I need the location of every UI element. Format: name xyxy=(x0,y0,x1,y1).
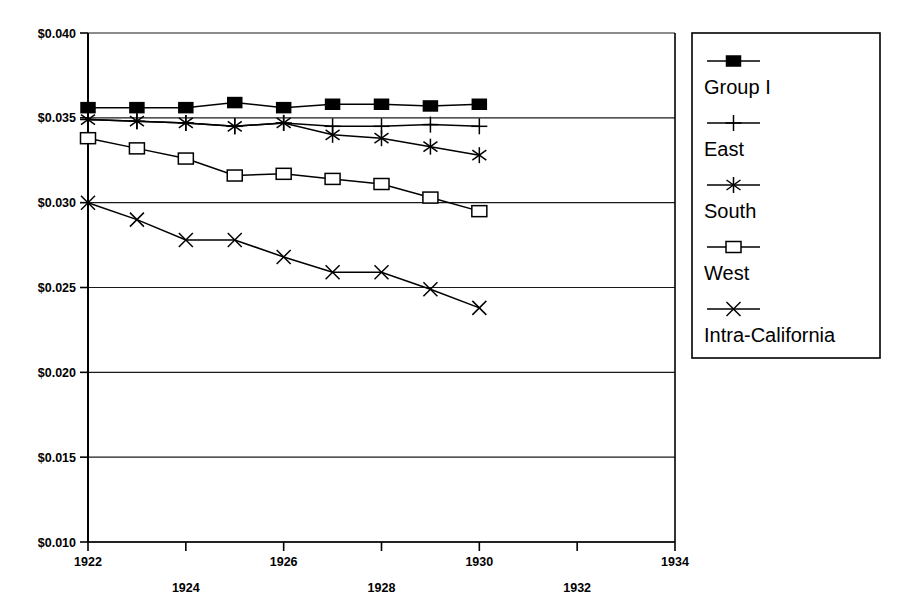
data-point-marker xyxy=(81,133,96,144)
data-point-marker xyxy=(422,117,438,133)
x-tick-label: 1926 xyxy=(270,555,298,569)
y-tick-label: $0.020 xyxy=(38,366,76,380)
data-point-marker xyxy=(130,213,144,227)
data-point-marker xyxy=(228,98,242,108)
data-point-marker xyxy=(130,103,144,113)
y-tick-label: $0.010 xyxy=(38,536,76,550)
data-point-marker xyxy=(81,103,95,113)
y-tick-label: $0.025 xyxy=(38,281,76,295)
x-tick-label: 1932 xyxy=(563,581,591,595)
data-point-marker xyxy=(423,282,437,296)
y-tick-label: $0.035 xyxy=(38,111,76,125)
data-point-marker xyxy=(726,242,741,253)
data-point-marker xyxy=(179,103,193,113)
series-layer xyxy=(80,98,487,315)
data-point-marker xyxy=(374,179,389,190)
x-tick-label: 1924 xyxy=(172,581,200,595)
data-point-marker xyxy=(423,101,437,111)
data-point-marker xyxy=(472,301,486,315)
data-point-marker xyxy=(423,192,438,203)
y-tick-label: $0.015 xyxy=(38,451,76,465)
data-point-marker xyxy=(375,99,389,109)
legend-label: Intra-California xyxy=(704,324,836,346)
x-tick-label: 1934 xyxy=(661,555,689,569)
data-point-marker xyxy=(472,99,486,109)
chart-page: $0.010$0.015$0.020$0.025$0.030$0.035$0.0… xyxy=(0,0,899,604)
y-tick-label: $0.030 xyxy=(38,196,76,210)
series-group-i xyxy=(81,98,486,113)
legend: Group IEastSouthWestIntra-California xyxy=(692,33,880,358)
data-point-marker xyxy=(277,250,291,264)
y-tick-label: $0.040 xyxy=(38,27,76,41)
legend-label: South xyxy=(704,200,756,222)
legend-label: Group I xyxy=(704,76,771,98)
x-tick-label: 1930 xyxy=(465,555,493,569)
data-point-marker xyxy=(129,143,144,154)
x-axis-ticks: 1922192419261928193019321934 xyxy=(74,542,689,595)
data-point-marker xyxy=(472,206,487,217)
legend-label: West xyxy=(704,262,750,284)
data-point-marker xyxy=(277,103,291,113)
x-tick-label: 1922 xyxy=(74,555,102,569)
data-point-marker xyxy=(178,153,193,164)
data-point-marker xyxy=(325,173,340,184)
data-point-marker xyxy=(423,139,437,155)
data-point-marker xyxy=(276,168,291,179)
legend-label: East xyxy=(704,138,744,160)
x-tick-label: 1928 xyxy=(368,581,396,595)
line-chart: $0.010$0.015$0.020$0.025$0.030$0.035$0.0… xyxy=(0,0,899,604)
data-point-marker xyxy=(227,170,242,181)
series-line xyxy=(88,203,479,308)
data-point-marker xyxy=(727,56,741,66)
data-point-marker xyxy=(471,118,487,134)
data-point-marker xyxy=(472,147,486,163)
series-south xyxy=(81,112,486,164)
series-intra-california xyxy=(81,196,486,315)
data-point-marker xyxy=(326,99,340,109)
